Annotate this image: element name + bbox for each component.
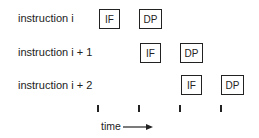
stage-label: DP (144, 14, 158, 25)
stage-label: DP (185, 48, 199, 59)
time-tick (97, 105, 99, 112)
time-tick (179, 105, 181, 112)
stage-box-if-row-1: IF (99, 9, 120, 29)
stage-box-dp-row-2: DP (180, 43, 203, 63)
arrow-right-icon (123, 123, 153, 131)
stage-label: IF (146, 48, 155, 59)
stage-box-if-row-2: IF (140, 43, 161, 63)
row-label-instruction-i-plus-1: instruction i + 1 (18, 46, 92, 58)
stage-label: IF (105, 14, 114, 25)
stage-box-if-row-3: IF (181, 75, 202, 95)
row-label-instruction-i: instruction i (18, 12, 74, 24)
stage-box-dp-row-1: DP (139, 9, 162, 29)
time-tick (220, 105, 222, 112)
row-label-instruction-i-plus-2: instruction i + 2 (18, 79, 92, 91)
stage-label: DP (226, 80, 240, 91)
time-axis-label: time (101, 120, 121, 132)
time-tick (138, 105, 140, 112)
stage-box-dp-row-3: DP (221, 75, 244, 95)
stage-label: IF (187, 80, 196, 91)
